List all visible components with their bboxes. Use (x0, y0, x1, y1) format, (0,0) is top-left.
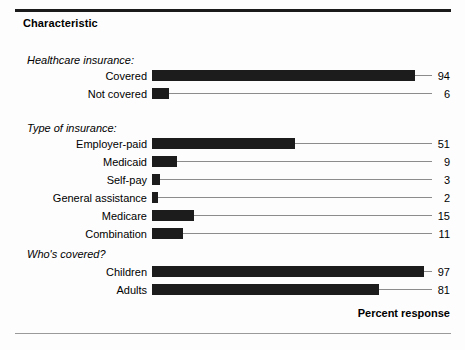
bar-row: Employer-paid51 (0, 136, 465, 152)
bar-row: Combination11 (0, 226, 465, 242)
bar-value-label: 15 (410, 210, 450, 222)
bar-value-label: 51 (410, 138, 450, 150)
bar-row: Medicaid9 (0, 154, 465, 170)
bar-category-label: Children (0, 266, 147, 278)
bar-category-label: Self-pay (0, 174, 147, 186)
bar (152, 266, 424, 277)
bar-category-label: Employer-paid (0, 138, 147, 150)
bar-category-label: Not covered (0, 88, 147, 100)
bar-value-label: 94 (410, 70, 450, 82)
bar-chart-plot: Healthcare insurance:Covered94Not covere… (0, 0, 465, 350)
bar (152, 192, 158, 203)
bottom-rule (15, 333, 451, 334)
bar-leader-line (152, 179, 432, 180)
bar-row: Children97 (0, 264, 465, 280)
group-header: Who's covered? (27, 248, 106, 260)
bar-value-label: 3 (410, 174, 450, 186)
bar-leader-line (152, 215, 432, 216)
figure-canvas: Characteristic Healthcare insurance:Cove… (0, 0, 465, 350)
bar (152, 284, 379, 295)
group-header: Healthcare insurance: (27, 54, 134, 66)
bar-category-label: General assistance (0, 192, 147, 204)
bar-category-label: Combination (0, 228, 147, 240)
bar-value-label: 9 (410, 156, 450, 168)
bar (152, 156, 177, 167)
bar-row: Adults81 (0, 282, 465, 298)
bar-row: Covered94 (0, 68, 465, 84)
bar-leader-line (152, 93, 432, 94)
bar (152, 174, 160, 185)
bar-category-label: Medicare (0, 210, 147, 222)
group-header: Type of insurance: (27, 122, 117, 134)
bar-category-label: Covered (0, 70, 147, 82)
bar-value-label: 6 (410, 88, 450, 100)
bar (152, 88, 169, 99)
bar-value-label: 11 (410, 228, 450, 240)
bar-row: Medicare15 (0, 208, 465, 224)
bar-category-label: Medicaid (0, 156, 147, 168)
bar-value-label: 2 (410, 192, 450, 204)
bar-row: Self-pay3 (0, 172, 465, 188)
bar-category-label: Adults (0, 284, 147, 296)
bar (152, 228, 183, 239)
bar (152, 70, 415, 81)
bar (152, 138, 295, 149)
bar-value-label: 81 (410, 284, 450, 296)
bar-row: Not covered6 (0, 86, 465, 102)
x-axis-title: Percent response (250, 307, 450, 319)
bar-leader-line (152, 161, 432, 162)
bar-leader-line (152, 197, 432, 198)
bar-leader-line (152, 233, 432, 234)
bar-value-label: 97 (410, 266, 450, 278)
bar (152, 210, 194, 221)
bar-row: General assistance2 (0, 190, 465, 206)
